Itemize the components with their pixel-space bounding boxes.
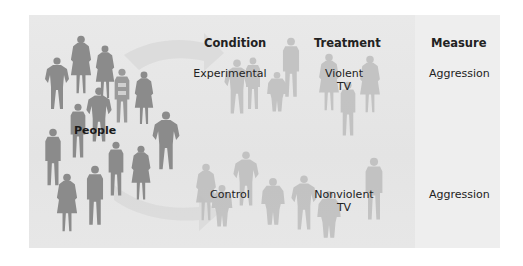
treatment-nonviolent-line2: TV (314, 201, 374, 214)
measure-aggression-experimental: Aggression (429, 67, 489, 80)
header-treatment: Treatment (314, 37, 374, 50)
treatment-violent-line2: TV (319, 80, 369, 93)
condition-experimental: Experimental (192, 67, 268, 80)
header-measure: Measure (431, 37, 486, 50)
condition-control: Control (204, 188, 256, 201)
header-condition: Condition (204, 37, 256, 50)
measure-aggression-control: Aggression (429, 188, 489, 201)
treatment-nonviolent-line1: Nonviolent (314, 188, 374, 201)
diagram-panel: People Condition Treatment Measure Exper… (29, 15, 500, 248)
people-label: People (74, 124, 116, 137)
person-striped (115, 69, 130, 123)
treatment-violent-line1: Violent (319, 67, 369, 80)
